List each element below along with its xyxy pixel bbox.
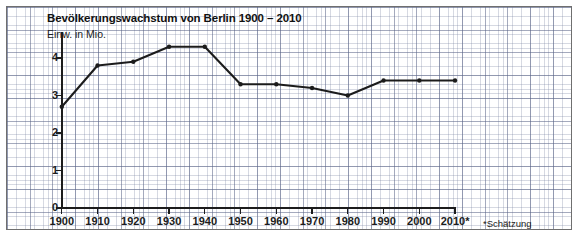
data-point-1910 bbox=[95, 63, 99, 67]
data-point-1940 bbox=[203, 45, 207, 49]
data-point-2000 bbox=[417, 78, 421, 82]
data-point-1950 bbox=[238, 82, 242, 86]
plot-area: 01234 1900191019201930194019501960197019… bbox=[0, 0, 578, 242]
data-point-1990 bbox=[381, 78, 385, 82]
data-point-1960 bbox=[274, 82, 278, 86]
data-point-1930 bbox=[167, 45, 171, 49]
chart-footnote: *Schätzung bbox=[483, 218, 532, 229]
data-point-2010 bbox=[453, 78, 457, 82]
chart-page: Bevölkerungswachstum von Berlin 1900 – 2… bbox=[0, 0, 578, 242]
data-point-1900 bbox=[60, 105, 64, 109]
data-point-1980 bbox=[346, 93, 350, 97]
data-point-1970 bbox=[310, 86, 314, 90]
data-point-1920 bbox=[131, 60, 135, 64]
data-series-line bbox=[0, 0, 578, 242]
